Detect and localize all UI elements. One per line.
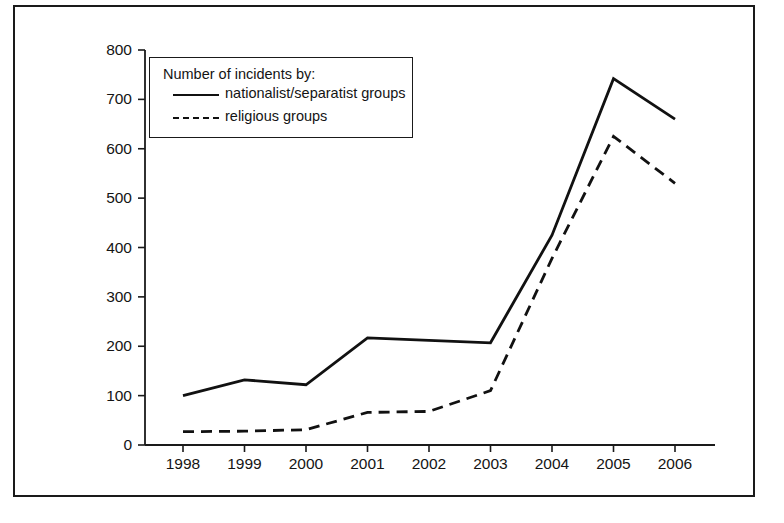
y-axis-tick-label: 800 [70, 41, 132, 59]
y-axis-tick-label: 200 [70, 337, 132, 355]
legend-title: Number of incidents by: [163, 66, 315, 82]
legend-swatch-solid-line-icon [173, 94, 219, 96]
legend-entry-label: nationalist/separatist groups [225, 85, 406, 101]
y-axis-tick-label: 0 [70, 436, 132, 454]
legend-entry-label: religious groups [225, 108, 327, 124]
x-axis-tick-label: 2004 [522, 455, 582, 473]
x-axis-tick-label: 2006 [645, 455, 705, 473]
chart-figure-frame: 0100200300400500600700800 19981999200020… [13, 5, 755, 497]
y-axis-tick-label: 600 [70, 140, 132, 158]
x-axis-tick-label: 1998 [153, 455, 213, 473]
y-axis-tick-label: 300 [70, 288, 132, 306]
y-axis-ticks [138, 50, 145, 445]
y-axis-tick-label: 400 [70, 239, 132, 257]
y-axis-tick-label: 100 [70, 387, 132, 405]
x-axis-tick-label: 1999 [215, 455, 275, 473]
legend-entry-religious: religious groups [163, 107, 403, 127]
x-axis-tick-label: 2001 [338, 455, 398, 473]
chart-legend: Number of incidents by: nationalist/sepa… [149, 57, 413, 138]
series-line-religious [183, 136, 675, 431]
x-axis-tick-label: 2005 [584, 455, 644, 473]
x-axis-tick-label: 2002 [399, 455, 459, 473]
x-axis-tick-label: 2003 [461, 455, 521, 473]
legend-swatch-dashed-line-icon [173, 117, 219, 119]
legend-entry-nationalist-separatist: nationalist/separatist groups [163, 84, 403, 104]
x-axis-tick-label: 2000 [276, 455, 336, 473]
y-axis-tick-label: 700 [70, 90, 132, 108]
x-axis-ticks [183, 445, 675, 452]
y-axis-tick-label: 500 [70, 189, 132, 207]
